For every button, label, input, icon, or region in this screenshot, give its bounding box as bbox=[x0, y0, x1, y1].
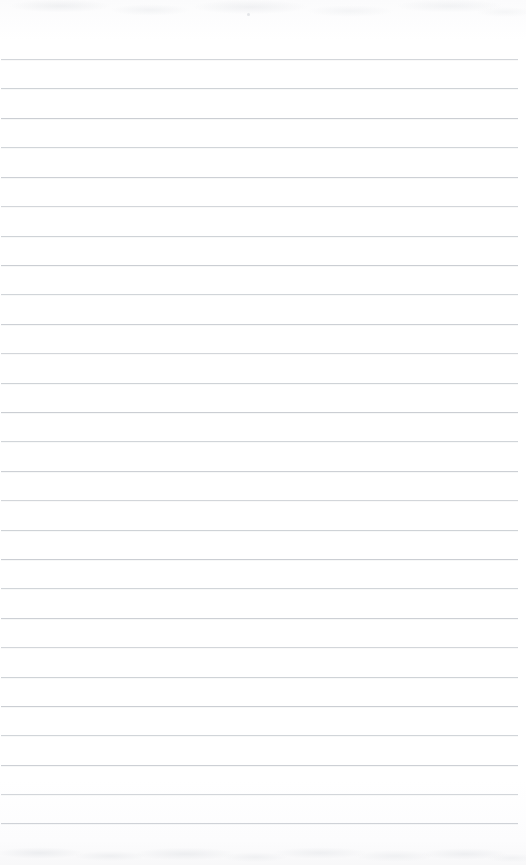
scanned-page bbox=[0, 0, 526, 865]
writing-area[interactable] bbox=[0, 30, 526, 830]
